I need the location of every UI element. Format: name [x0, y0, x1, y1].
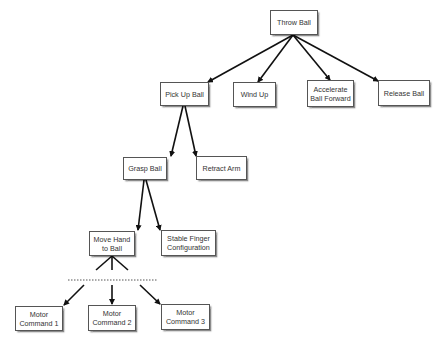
node-label: Motor Command 3 [166, 308, 205, 326]
node-label: Grasp Ball [128, 164, 162, 173]
arrow-pick_up_ball-to-retract_arm [185, 106, 196, 156]
fan-lines [96, 256, 128, 270]
node-label: Motor Command 1 [19, 310, 58, 328]
node-pick-up-ball: Pick Up Ball [160, 82, 209, 106]
node-label: Throw Ball [277, 18, 311, 27]
node-motor-command-1: Motor Command 1 [15, 306, 63, 331]
arrow-grasp_ball-to-stable_finger_configuration [146, 180, 160, 230]
node-grasp-ball: Grasp Ball [123, 157, 167, 180]
node-label: Release Ball [384, 89, 424, 98]
node-label: Wind Up [241, 90, 269, 99]
arrow-motor_group-to-motor_command_1 [64, 285, 84, 305]
arrow-throw_ball-to-release_ball [293, 35, 378, 81]
node-release-ball: Release Ball [378, 80, 430, 106]
node-label: Motor Command 2 [92, 309, 131, 327]
node-stable-finger-configuration: Stable Finger Configuration [161, 230, 216, 256]
node-label: Move Hand to Ball [94, 235, 131, 253]
node-label: Pick Up Ball [165, 90, 204, 99]
node-wind-up: Wind Up [233, 82, 276, 107]
node-accelerate-ball-forward: Accelerate Ball Forward [307, 80, 354, 107]
node-motor-command-2: Motor Command 2 [88, 305, 136, 331]
arrow-motor_group-to-motor_command_3 [140, 285, 160, 304]
arrow-grasp_ball-to-move_hand_to_ball [138, 180, 144, 230]
node-retract-arm: Retract Arm [196, 156, 247, 180]
arrow-throw_ball-to-accelerate_ball_forward [293, 35, 330, 80]
node-motor-command-3: Motor Command 3 [161, 304, 210, 330]
arrow-pick_up_ball-to-grasp_ball [171, 106, 183, 156]
node-label: Retract Arm [203, 164, 241, 173]
node-label: Stable Finger Configuration [167, 234, 210, 252]
node-move-hand-to-ball: Move Hand to Ball [89, 231, 135, 256]
fan-line-3 [112, 256, 128, 270]
node-throw-ball: Throw Ball [270, 10, 318, 35]
node-label: Accelerate Ball Forward [310, 85, 350, 103]
arrow-throw_ball-to-wind_up [258, 35, 293, 82]
fan-line-1 [96, 256, 112, 270]
arrow-throw_ball-to-pick_up_ball [208, 35, 293, 82]
